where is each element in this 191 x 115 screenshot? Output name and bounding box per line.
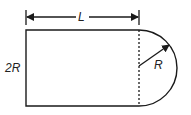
height-label: 2R xyxy=(5,62,20,74)
radius-label: R xyxy=(154,59,163,71)
length-label: L xyxy=(78,11,85,23)
rectangle-outline xyxy=(26,30,139,106)
